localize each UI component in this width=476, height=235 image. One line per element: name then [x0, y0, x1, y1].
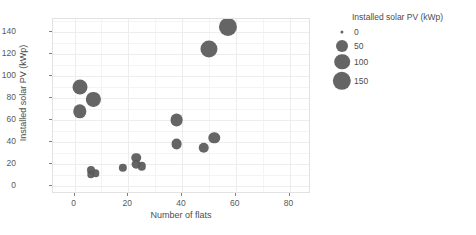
y-tick-label: 80 — [7, 92, 16, 102]
grid-line — [182, 19, 183, 192]
y-tick-label: 40 — [7, 136, 16, 146]
legend-label: 150 — [354, 76, 368, 86]
grid-line — [53, 76, 309, 77]
legend-item: 150 — [332, 71, 472, 91]
y-axis-label: Installed solar PV (kWp) — [18, 8, 28, 178]
x-tick-label: 60 — [230, 198, 239, 208]
grid-line — [53, 131, 309, 132]
x-tick-mark — [74, 193, 75, 196]
grid-line — [53, 164, 309, 165]
y-tick-label: 0 — [11, 180, 16, 190]
grid-line — [263, 19, 264, 192]
data-point — [73, 105, 86, 118]
legend-key-100 — [334, 54, 350, 70]
data-point — [171, 139, 182, 150]
grid-line — [53, 186, 309, 187]
grid-line — [53, 43, 309, 44]
y-tick-label: 100 — [2, 70, 16, 80]
grid-line — [53, 54, 309, 55]
legend-label: 0 — [354, 27, 359, 37]
grid-line — [53, 153, 309, 154]
data-point — [198, 143, 209, 154]
grid-line — [53, 87, 309, 88]
data-point — [119, 163, 127, 171]
y-tick-mark — [49, 185, 52, 186]
grid-line — [236, 19, 237, 192]
grid-line — [128, 19, 129, 192]
y-tick-mark — [49, 97, 52, 98]
grid-line — [290, 19, 291, 192]
legend-label: 100 — [354, 57, 368, 67]
x-tick-label: 20 — [123, 198, 132, 208]
legend-key-0 — [340, 30, 343, 33]
y-tick-mark — [49, 163, 52, 164]
legend-title: Installed solar PV (kWp) — [352, 12, 472, 22]
legend-entries: 050100150 — [332, 25, 472, 91]
data-point — [200, 40, 217, 57]
scatter-chart: 020406080100120140 020406080 Number of f… — [0, 0, 476, 235]
data-point — [137, 162, 145, 170]
legend-item: 0 — [332, 25, 472, 39]
legend: Installed solar PV (kWp) 050100150 — [332, 12, 472, 91]
y-tick-mark — [49, 141, 52, 142]
legend-key-150 — [333, 72, 351, 90]
legend-item: 100 — [332, 53, 472, 71]
x-tick-label: 80 — [284, 198, 293, 208]
grid-line — [53, 65, 309, 66]
grid-line — [155, 19, 156, 192]
x-tick-mark — [235, 193, 236, 196]
legend-label: 50 — [354, 41, 363, 51]
x-tick-label: 0 — [71, 198, 76, 208]
y-tick-mark — [49, 119, 52, 120]
y-tick-label: 140 — [2, 26, 16, 36]
x-tick-mark — [181, 193, 182, 196]
y-tick-label: 20 — [7, 158, 16, 168]
x-tick-label: 40 — [176, 198, 185, 208]
data-point — [170, 114, 183, 127]
x-axis-label: Number of flats — [52, 210, 310, 220]
legend-item: 50 — [332, 39, 472, 53]
data-point — [86, 92, 100, 106]
y-tick-label: 60 — [7, 114, 16, 124]
y-tick-mark — [49, 31, 52, 32]
x-tick-mark — [127, 193, 128, 196]
y-tick-label: 120 — [2, 48, 16, 58]
legend-key-50 — [336, 40, 348, 52]
grid-line — [53, 21, 309, 22]
data-point — [219, 18, 237, 36]
grid-line — [101, 19, 102, 192]
grid-line — [53, 32, 309, 33]
grid-line — [53, 109, 309, 110]
data-point — [72, 80, 87, 95]
y-tick-mark — [49, 75, 52, 76]
y-tick-mark — [49, 53, 52, 54]
x-tick-mark — [289, 193, 290, 196]
x-axis-ticks: 020406080 — [0, 196, 476, 210]
plot-panel — [52, 18, 310, 193]
